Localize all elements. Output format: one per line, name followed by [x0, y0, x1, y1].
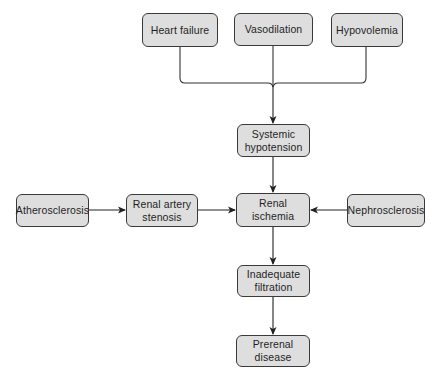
node-hypovolemia: Hypovolemia — [331, 13, 403, 47]
prerenal-disease-flowchart: Heart failure Vasodilation Hypovolemia S… — [0, 0, 442, 376]
node-renal-artery-stenosis: Renal artery stenosis — [126, 194, 198, 227]
node-prerenal-disease: Prerenal disease — [236, 335, 310, 367]
node-label-line2: stenosis — [142, 211, 181, 224]
node-label-line1: Renal artery — [133, 198, 191, 211]
connector-layer — [0, 0, 442, 376]
node-label-line1: Prerenal — [253, 338, 294, 351]
node-label-line1: Renal — [259, 197, 287, 210]
node-systemic-hypotension: Systemic hypotension — [237, 124, 310, 157]
node-nephrosclerosis: Nephrosclerosis — [347, 194, 425, 227]
node-label-line2: disease — [255, 351, 292, 364]
node-label: Vasodilation — [245, 23, 303, 36]
node-heart-failure: Heart failure — [142, 13, 218, 47]
node-inadequate-filtration: Inadequate filtration — [237, 265, 310, 297]
node-label: Atherosclerosis — [16, 204, 89, 217]
merge-bracket-connector — [180, 46, 366, 87]
node-label-line1: Systemic — [252, 128, 295, 141]
node-vasodilation: Vasodilation — [234, 13, 313, 46]
node-label-line2: hypotension — [245, 141, 303, 154]
node-label-line1: Inadequate — [247, 268, 301, 281]
node-atherosclerosis: Atherosclerosis — [16, 194, 89, 227]
node-label-line2: ischemia — [252, 210, 294, 223]
node-label: Hypovolemia — [336, 24, 398, 37]
node-label: Nephrosclerosis — [348, 204, 425, 217]
node-renal-ischemia: Renal ischemia — [236, 193, 310, 227]
node-label: Heart failure — [151, 24, 210, 37]
node-label-line2: filtration — [255, 281, 293, 294]
